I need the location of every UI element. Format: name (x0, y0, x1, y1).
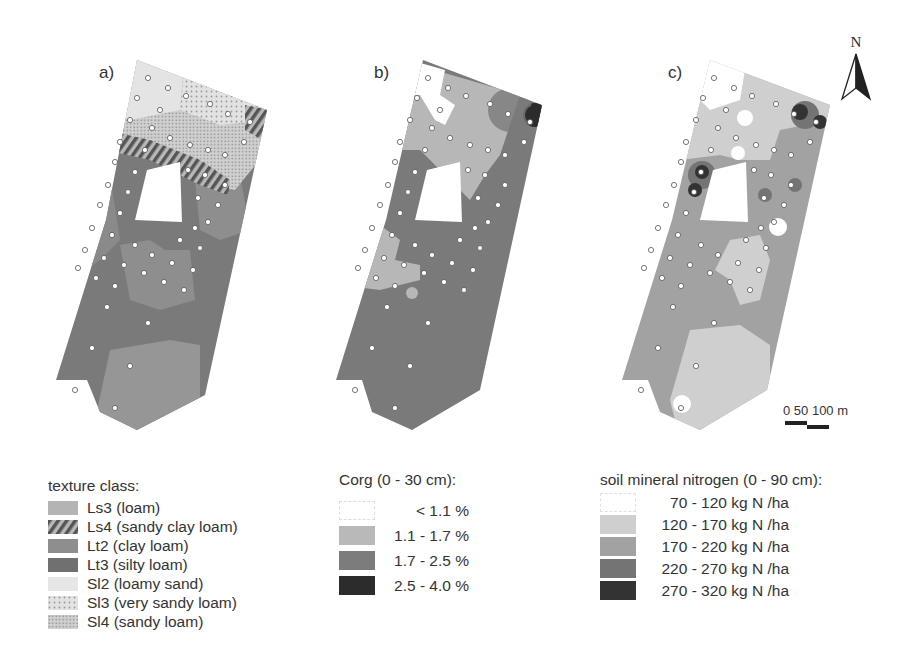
swatch-sl2 (48, 577, 78, 591)
legend-label: 70 - 120 kg N /ha (646, 493, 789, 512)
legend-label: Ls3 (loam) (87, 498, 160, 517)
legend-texture: texture class: Ls3 (loam) Ls4 (sandy cla… (48, 476, 238, 631)
swatch-corg-3 (339, 551, 375, 570)
legend-label: < 1.1 % (385, 501, 469, 520)
swatch-ls4 (48, 520, 78, 534)
swatch-corg-2 (339, 526, 375, 545)
scale-bar-graphic (783, 420, 843, 430)
swatch-sl4 (48, 615, 78, 629)
swatch-n-2 (600, 515, 636, 534)
legend-item: Lt2 (clay loam) (48, 536, 238, 555)
legend-label: 1.1 - 1.7 % (385, 526, 469, 545)
legend-label: 120 - 170 kg N /ha (646, 515, 789, 534)
legend-label: 270 - 320 kg N /ha (646, 581, 789, 600)
swatch-corg-4 (339, 576, 375, 595)
swatch-corg-1 (339, 501, 375, 520)
legend-item: 120 - 170 kg N /ha (600, 513, 822, 535)
swatch-ls3 (48, 501, 78, 515)
legend-item: Sl3 (very sandy loam) (48, 593, 238, 612)
maps-figure (0, 0, 921, 450)
swatch-n-1 (600, 493, 636, 512)
legend-item: Ls3 (loam) (48, 498, 238, 517)
north-arrow: N (838, 34, 874, 107)
legend-label: 170 - 220 kg N /ha (646, 537, 789, 556)
legend-nitrogen-title: soil mineral nitrogen (0 - 90 cm): (600, 470, 822, 489)
legend-item: 170 - 220 kg N /ha (600, 535, 822, 557)
legend-corg: Corg (0 - 30 cm): < 1.1 % 1.1 - 1.7 % 1.… (339, 470, 469, 598)
north-label: N (838, 34, 874, 51)
legend-nitrogen: soil mineral nitrogen (0 - 90 cm): 70 - … (600, 470, 822, 601)
legend-label: Lt2 (clay loam) (87, 536, 189, 555)
legend-item: Ls4 (sandy clay loam) (48, 517, 238, 536)
legend-item: Sl4 (sandy loam) (48, 612, 238, 631)
legend-label: Sl2 (loamy sand) (87, 574, 203, 593)
swatch-n-4 (600, 559, 636, 578)
legend-item: 1.1 - 1.7 % (339, 523, 469, 548)
swatch-lt2 (48, 539, 78, 553)
legend-corg-title: Corg (0 - 30 cm): (339, 470, 469, 489)
swatch-n-5 (600, 581, 636, 600)
map-nitrogen (600, 50, 840, 450)
legend-label: Ls4 (sandy clay loam) (87, 517, 238, 536)
legend-label: 1.7 - 2.5 % (385, 551, 469, 570)
legend-item: 2.5 - 4.0 % (339, 573, 469, 598)
scale-bar-labels: 0 50 100 m (783, 403, 848, 418)
scale-bar: 0 50 100 m (783, 403, 848, 433)
legend-label: Lt3 (silty loam) (87, 555, 188, 574)
north-arrow-icon (838, 51, 874, 103)
legend-item: < 1.1 % (339, 498, 469, 523)
legend-item: Sl2 (loamy sand) (48, 574, 238, 593)
legend-label: Sl4 (sandy loam) (87, 612, 203, 631)
legend-item: 70 - 120 kg N /ha (600, 491, 822, 513)
legend-item: 220 - 270 kg N /ha (600, 557, 822, 579)
swatch-lt3 (48, 558, 78, 572)
legend-item: Lt3 (silty loam) (48, 555, 238, 574)
legend-label: 220 - 270 kg N /ha (646, 559, 789, 578)
swatch-sl3 (48, 596, 78, 610)
legend-item: 1.7 - 2.5 % (339, 548, 469, 573)
legend-label: Sl3 (very sandy loam) (87, 593, 237, 612)
legend-texture-title: texture class: (48, 476, 238, 495)
swatch-n-3 (600, 537, 636, 556)
legend-item: 270 - 320 kg N /ha (600, 579, 822, 601)
legend-label: 2.5 - 4.0 % (385, 576, 469, 595)
